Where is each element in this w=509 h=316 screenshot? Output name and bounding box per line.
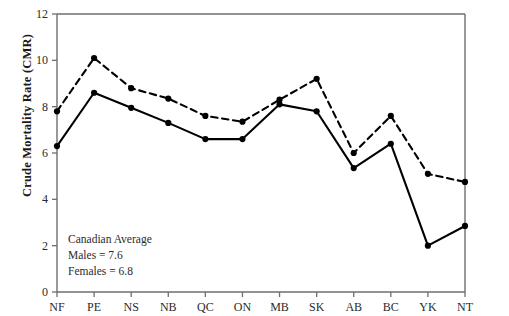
x-tick-label: NF — [49, 300, 65, 314]
series-line-females — [57, 93, 465, 246]
x-tick-label: NB — [160, 300, 177, 314]
data-point-males — [91, 55, 97, 61]
y-tick-label: 0 — [42, 285, 48, 299]
data-point-females — [462, 223, 468, 229]
x-tick-label: SK — [309, 300, 325, 314]
data-point-females — [128, 105, 134, 111]
data-point-males — [54, 108, 60, 114]
annotation-line-1: Canadian Average — [68, 233, 152, 246]
annotation-line-2: Males = 7.6 — [68, 249, 123, 261]
y-tick-label: 4 — [42, 192, 48, 206]
y-tick-label: 12 — [36, 7, 48, 21]
data-point-females — [276, 101, 282, 107]
data-point-females — [202, 136, 208, 142]
data-point-males — [202, 113, 208, 119]
data-point-females — [54, 143, 60, 149]
chart-annotation: Canadian Average Males = 7.6 Females = 6… — [68, 233, 152, 277]
data-point-males — [314, 76, 320, 82]
y-tick-label: 8 — [42, 100, 48, 114]
line-chart-plot: 024681012 NFPENSNBQCONMBSKABBCYKNT Canad… — [0, 0, 509, 316]
x-tick-label: NS — [124, 300, 139, 314]
data-point-females — [239, 136, 245, 142]
x-tick-label: YK — [419, 300, 437, 314]
data-point-males — [239, 119, 245, 125]
x-tick-label: ON — [234, 300, 252, 314]
x-tick-label: MB — [270, 300, 289, 314]
series-line-males — [57, 58, 465, 182]
data-point-females — [165, 120, 171, 126]
chart-figure: Crude Mortality Rate (CMR) 024681012 NFP… — [0, 0, 509, 316]
data-point-males — [351, 150, 357, 156]
data-point-males — [388, 113, 394, 119]
data-point-females — [388, 141, 394, 147]
x-tick-label: QC — [197, 300, 214, 314]
y-axis-ticks: 024681012 — [36, 7, 57, 299]
chart-series-layer — [54, 55, 468, 249]
data-point-males — [462, 179, 468, 185]
data-point-males — [128, 85, 134, 91]
data-point-females — [425, 243, 431, 249]
y-tick-label: 10 — [36, 53, 48, 67]
data-point-males — [425, 171, 431, 177]
x-axis-ticks: NFPENSNBQCONMBSKABBCYKNT — [49, 292, 473, 314]
y-tick-label: 2 — [42, 239, 48, 253]
data-point-females — [314, 108, 320, 114]
x-tick-label: AB — [345, 300, 362, 314]
y-tick-label: 6 — [42, 146, 48, 160]
x-tick-label: NT — [457, 300, 474, 314]
annotation-line-3: Females = 6.8 — [68, 265, 133, 277]
data-point-males — [165, 95, 171, 101]
x-tick-label: PE — [87, 300, 101, 314]
data-point-females — [91, 90, 97, 96]
x-tick-label: BC — [383, 300, 399, 314]
data-point-females — [351, 165, 357, 171]
